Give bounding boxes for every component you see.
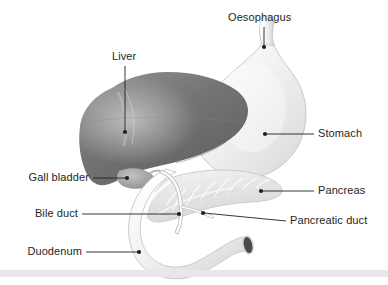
label-oesophagus: Oesophagus xyxy=(228,12,291,23)
diagram-canvas: Oesophagus Liver Stomach Pancreas Pancre… xyxy=(0,0,388,285)
label-duodenum: Duodenum xyxy=(0,246,82,257)
label-liver: Liver xyxy=(112,51,136,62)
anatomy-illustration xyxy=(0,0,388,285)
label-gall-bladder: Gall bladder xyxy=(0,172,89,183)
label-stomach: Stomach xyxy=(318,128,362,139)
duodenum-lumen xyxy=(241,235,255,255)
label-pancreatic-duct: Pancreatic duct xyxy=(290,215,367,226)
label-bile-duct: Bile duct xyxy=(0,208,78,219)
leader-pancreatic-duct xyxy=(204,213,286,221)
bottom-divider xyxy=(0,270,388,277)
label-pancreas: Pancreas xyxy=(318,185,365,196)
